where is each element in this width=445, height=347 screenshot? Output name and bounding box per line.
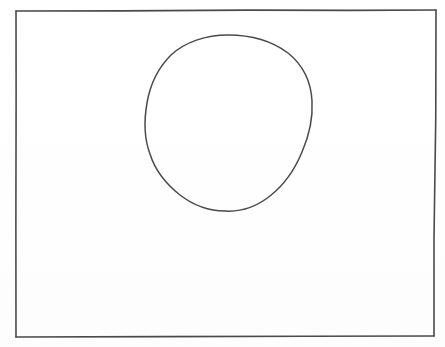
drawing-canvas <box>0 0 445 347</box>
hand-drawn-circle <box>145 35 312 211</box>
circle-outline <box>145 35 312 211</box>
frame-bottom-edge <box>16 336 434 337</box>
frame-top-edge <box>16 10 436 11</box>
line-drawing-svg <box>0 0 445 347</box>
frame-rectangle <box>16 10 436 337</box>
frame-right-edge <box>434 10 436 336</box>
